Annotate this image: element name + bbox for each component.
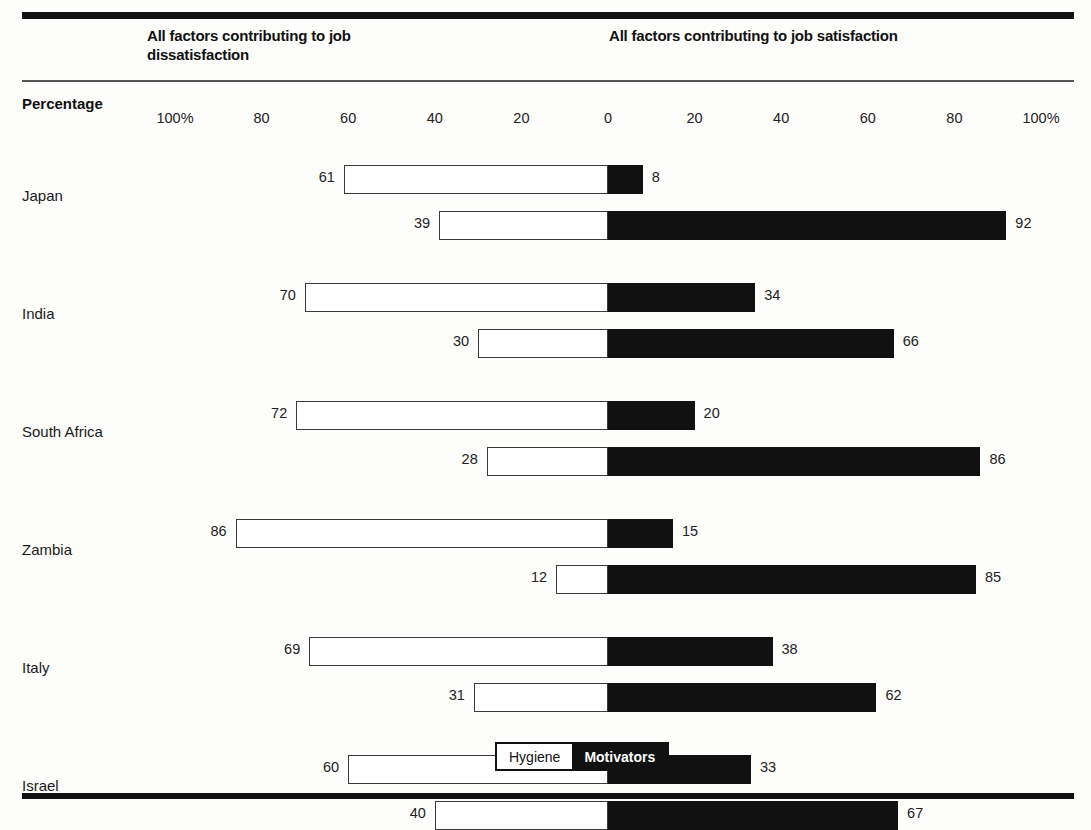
bar-value-hygiene: 70 [280, 287, 305, 303]
bar-value-hygiene: 72 [271, 405, 296, 421]
bar-row: 6938 [0, 637, 1091, 666]
bar-hygiene [435, 801, 608, 830]
bar-value-motivators: 62 [876, 687, 901, 703]
bar-value-motivators: 20 [695, 405, 720, 421]
bar-value-motivators: 85 [976, 569, 1001, 585]
bar-motivators [608, 447, 980, 476]
bar-motivators [608, 283, 755, 312]
bar-motivators [608, 637, 773, 666]
bar-row: 618 [0, 165, 1091, 194]
bar-hygiene [309, 637, 608, 666]
country-label-japan: Japan [22, 187, 63, 204]
legend-item-hygiene: Hygiene [497, 744, 572, 769]
bar-row: 2886 [0, 447, 1091, 476]
bar-row: 7220 [0, 401, 1091, 430]
bar-row: 4067 [0, 801, 1091, 830]
bottom-rule [22, 793, 1074, 799]
bar-motivators [608, 401, 695, 430]
bar-hygiene [474, 683, 608, 712]
bar-value-hygiene: 69 [284, 641, 309, 657]
bar-value-hygiene: 30 [453, 333, 478, 349]
bar-value-motivators: 15 [673, 523, 698, 539]
bar-hygiene [556, 565, 608, 594]
bar-value-hygiene: 28 [462, 451, 487, 467]
bar-hygiene [344, 165, 608, 194]
bar-motivators [608, 683, 876, 712]
country-label-israel: Israel [22, 777, 59, 794]
bar-value-motivators: 34 [755, 287, 780, 303]
bar-hygiene [305, 283, 608, 312]
bar-motivators [608, 329, 894, 358]
bar-value-hygiene: 40 [410, 805, 435, 821]
bar-hygiene [478, 329, 608, 358]
country-label-india: India [22, 305, 55, 322]
bar-value-motivators: 92 [1006, 215, 1031, 231]
bar-value-motivators: 67 [898, 805, 923, 821]
bar-motivators [608, 165, 643, 194]
bar-row: 8615 [0, 519, 1091, 548]
bar-motivators [608, 565, 976, 594]
bar-hygiene [439, 211, 608, 240]
bar-motivators [608, 801, 898, 830]
bar-value-hygiene: 31 [449, 687, 474, 703]
bar-row: 3992 [0, 211, 1091, 240]
bar-hygiene [236, 519, 608, 548]
legend: Hygiene Motivators [495, 742, 669, 771]
country-label-italy: Italy [22, 659, 50, 676]
bar-value-hygiene: 12 [531, 569, 556, 585]
bar-value-motivators: 66 [894, 333, 919, 349]
bar-value-hygiene: 39 [414, 215, 439, 231]
bar-value-motivators: 38 [773, 641, 798, 657]
country-label-zambia: Zambia [22, 541, 72, 558]
bar-motivators [608, 211, 1006, 240]
bar-hygiene [296, 401, 608, 430]
bar-motivators [608, 519, 673, 548]
country-label-south-africa: South Africa [22, 423, 103, 440]
bar-row: 3066 [0, 329, 1091, 358]
bar-value-hygiene: 86 [210, 523, 235, 539]
bar-row: 1285 [0, 565, 1091, 594]
bar-value-motivators: 8 [643, 169, 660, 185]
bar-value-hygiene: 61 [319, 169, 344, 185]
bar-row: 7034 [0, 283, 1091, 312]
bar-value-hygiene: 60 [323, 759, 348, 775]
bar-hygiene [487, 447, 608, 476]
bar-value-motivators: 33 [751, 759, 776, 775]
bar-value-motivators: 86 [980, 451, 1005, 467]
legend-item-motivators: Motivators [572, 744, 667, 769]
bar-row: 3162 [0, 683, 1091, 712]
